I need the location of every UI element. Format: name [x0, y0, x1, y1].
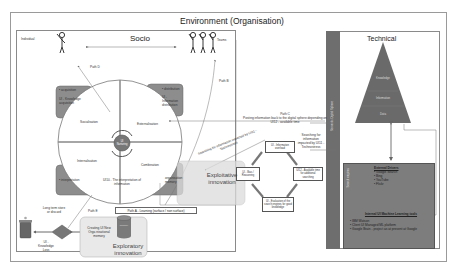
path-d-label: Path D — [90, 65, 100, 69]
database-icon — [117, 216, 131, 239]
external-item: • Flickr — [374, 182, 432, 186]
internal-item: • Google Brain - project as at present a… — [350, 227, 432, 231]
exploitative-innovation-label: Exploitative innovation — [202, 172, 242, 186]
external-drivers-list: External Drivers • Google Search • Bing … — [374, 166, 432, 186]
pyramid-data-label: Data — [368, 112, 398, 116]
organisation-memory-label: organisation memory — [165, 176, 183, 184]
path-e-label: Path E — [88, 209, 98, 213]
information-overload-box: UI - Information overload — [265, 141, 295, 153]
pyramid-knowledge-label: Knowledge — [370, 76, 396, 80]
knowledge-acquisition-box: • acquisition UI - Knowledge acquisition — [59, 88, 91, 105]
teams-label: Teams — [217, 38, 226, 42]
trash-can-icon — [19, 217, 32, 238]
individual-label: Individual — [21, 37, 34, 41]
team-figures-icon — [189, 32, 216, 53]
socialisation-label: Socialisation — [80, 120, 98, 124]
long-term-store-label: Long term store or discard — [42, 206, 66, 214]
acquisition-label: UI - Knowledge acquisition — [59, 97, 91, 105]
internal-tools-list: Internal UI Machine Learning tools • IBM… — [350, 212, 432, 231]
ui-nurturing-hub: UI Nurturing — [116, 140, 128, 146]
acquisition-bullet: • acquisition — [59, 88, 91, 92]
individual-figure-icon — [57, 32, 65, 53]
distribution-label: UI - Information distribution — [162, 95, 182, 107]
information-distribution-box: • distribution UI - Information distribu… — [162, 87, 182, 107]
internalisation-label: Internalisation — [77, 159, 97, 163]
search-evaluation-box: UI - Evaluation of the search engines fo… — [262, 197, 294, 212]
interpretation-bullet: • interpretation — [59, 178, 80, 182]
path-a-label: Path A - Learning (surface / non surface… — [115, 207, 197, 214]
available-time-box: UI12 - Available time for additional sea… — [293, 167, 323, 181]
distribution-bullet: • distribution — [162, 87, 182, 91]
creating-memory-label: Creating UI New Orga nisational memory — [86, 226, 112, 238]
internal-tools-title: Internal UI Machine Learning tools — [350, 212, 432, 216]
path-c-label: Path C Posting information back to the d… — [240, 112, 330, 124]
search-engines-side-label: Search engines — [346, 168, 350, 187]
search-engines-panel: Search engines External Drivers • Google… — [343, 163, 435, 249]
knowledge-loss-label: UI - Knowledge Loss — [36, 240, 56, 252]
exploratory-innovation-label: Exploratory innovation — [108, 243, 148, 257]
externalisation-label: Externalisation — [137, 122, 158, 126]
search-impacted-right-label: Searching for information impacted by UI… — [297, 133, 325, 149]
path-c-desc: Posting information back to the digital … — [240, 116, 330, 124]
database-label: memory — [117, 224, 131, 227]
path-b-label: Path B — [219, 79, 229, 83]
combination-label: Combination — [141, 163, 159, 167]
ui10-interpretation-label: UI10 - The interpretation of information — [99, 178, 145, 186]
pyramid-information-label: Information — [368, 96, 398, 100]
